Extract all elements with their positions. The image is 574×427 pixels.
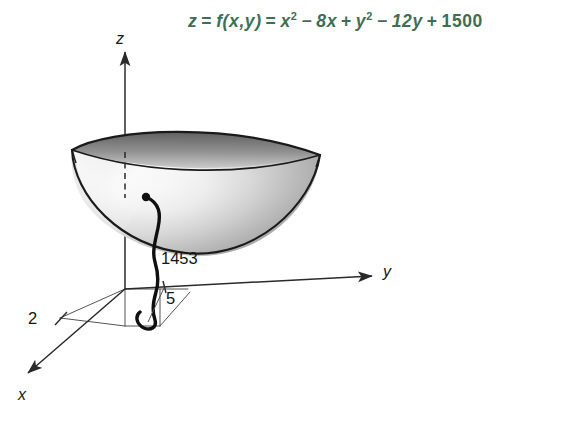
base-line-front-left bbox=[60, 318, 125, 326]
figure-canvas bbox=[0, 0, 574, 427]
surface-plot-figure: z=f(x,y)=x2−8x+y2−12y+1500 bbox=[0, 0, 574, 427]
x-axis bbox=[28, 289, 125, 373]
y-axis bbox=[125, 276, 372, 289]
z-axis-label: z bbox=[116, 30, 124, 48]
x-tick-label-2: 2 bbox=[28, 309, 37, 328]
y-axis-label: y bbox=[383, 263, 391, 281]
base-line-x-to-corner bbox=[60, 289, 125, 318]
paraboloid-surface bbox=[71, 132, 320, 256]
x-axis-label: x bbox=[18, 386, 26, 404]
y-tick-label-5: 5 bbox=[166, 289, 175, 308]
minimum-value-label: 1453 bbox=[161, 249, 198, 268]
